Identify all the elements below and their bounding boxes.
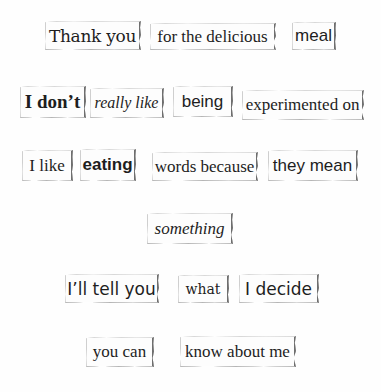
word-tile-something[interactable]: something xyxy=(147,213,233,244)
word-tile-thank-you[interactable]: Thank you xyxy=(45,21,141,50)
word-tile-i-like[interactable]: I like xyxy=(22,150,73,181)
word-tile-experimented-on[interactable]: experimented on xyxy=(242,90,364,120)
word-tile-ill-tell-you[interactable]: I’ll tell you xyxy=(65,274,159,303)
word-tile-i-dont[interactable]: I don’t xyxy=(20,86,86,118)
word-tile-meal[interactable]: meal xyxy=(292,22,336,50)
word-tile-really-like[interactable]: really like xyxy=(90,88,164,118)
magnetic-poetry-canvas: Thank you for the delicious meal I don’t… xyxy=(0,0,381,392)
word-tile-they-mean[interactable]: they mean xyxy=(268,150,358,181)
word-tile-you-can[interactable]: you can xyxy=(86,337,154,367)
word-tile-i-decide[interactable]: I decide xyxy=(239,274,319,303)
word-tile-what[interactable]: what xyxy=(178,275,229,303)
word-tile-for-the-delicious[interactable]: for the delicious xyxy=(150,23,276,50)
word-tile-words-because[interactable]: words because xyxy=(152,152,258,181)
word-tile-know-about-me[interactable]: know about me xyxy=(180,336,296,367)
word-tile-eating[interactable]: eating xyxy=(80,149,136,181)
word-tile-being[interactable]: being xyxy=(173,86,233,117)
